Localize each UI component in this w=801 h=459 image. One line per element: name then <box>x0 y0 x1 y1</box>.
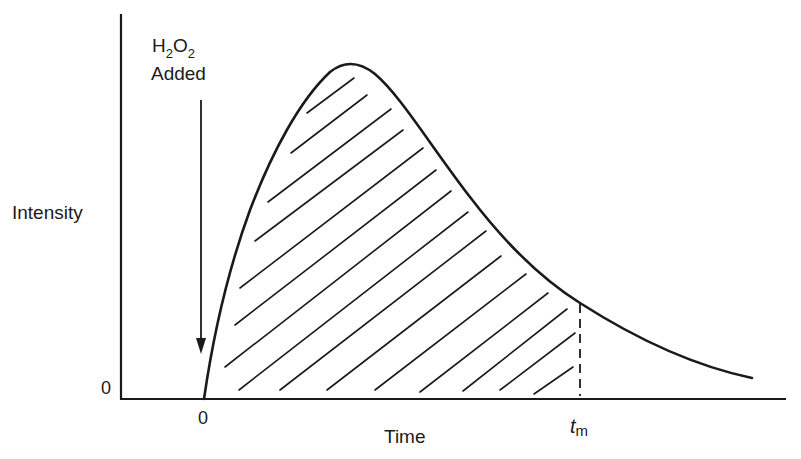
intensity-time-diagram: H2O2 Added Intensity 0 0 Time tm <box>0 0 801 459</box>
tm-label: tm <box>570 415 588 439</box>
x-axis-label: Time <box>384 426 426 447</box>
added-label: Added <box>151 63 206 84</box>
y-zero-tick: 0 <box>101 378 111 398</box>
x-zero-tick: 0 <box>198 408 208 428</box>
intensity-curve <box>204 64 752 399</box>
h2o2-label: H2O2 <box>152 35 195 61</box>
y-axis-label: Intensity <box>12 202 83 223</box>
hatched-area <box>225 78 575 394</box>
arrow-down-icon <box>196 338 206 354</box>
